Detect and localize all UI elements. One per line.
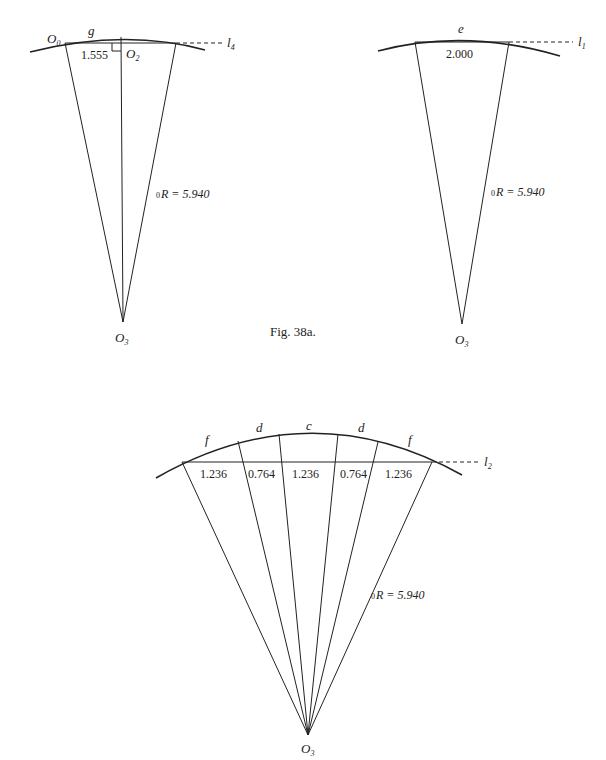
radius-5: [308, 442, 378, 735]
radius-label: 0R = 5.940: [371, 588, 424, 602]
apex-label-O3: O3: [115, 330, 128, 347]
arc-label-g: g: [88, 23, 95, 38]
radius-left: [415, 42, 462, 324]
apex-label-O3: O3: [455, 332, 468, 349]
line-label-l1: l1: [578, 34, 586, 51]
segment-value-3: 1.236: [292, 467, 319, 481]
diagram-bottom: f d c d f 1.236 0.764 1.236 0.764 1.236 …: [156, 418, 492, 758]
perpendicular: [121, 37, 123, 322]
figure-caption: Fig. 38a.: [270, 324, 316, 339]
radius-right: [123, 43, 176, 322]
segment-value-1: 1.236: [200, 467, 227, 481]
segment-value-5: 1.236: [385, 467, 412, 481]
point-label-O2: O2: [126, 46, 139, 63]
radius-label: 0R = 5.940: [491, 185, 544, 199]
apex-label-O3: O3: [301, 741, 314, 758]
radius-label: 0R = 5.940: [156, 187, 209, 201]
arc-label-d-left: d: [256, 420, 263, 435]
segment-value-4: 0.764: [340, 467, 367, 481]
point-label-O0: O0: [47, 31, 60, 48]
arc-label-c: c: [306, 418, 312, 433]
figure-38a: g O0 O2 1.555 l4 0R = 5.940 O3 e 2.000 l…: [0, 0, 606, 760]
arc-label-d-right: d: [358, 420, 365, 435]
diagram-top-left: g O0 O2 1.555 l4 0R = 5.940 O3: [30, 23, 235, 347]
line-label-l2: l2: [484, 454, 492, 471]
arc-label-f-right: f: [408, 432, 414, 447]
radius-left: [65, 43, 123, 322]
arc-label-e: e: [458, 21, 464, 36]
radius-2: [238, 441, 308, 735]
right-angle-mark: [112, 43, 121, 51]
line-label-l4: l4: [227, 35, 235, 52]
arc-label-f-left: f: [205, 432, 211, 447]
half-chord-value: 1.555: [81, 48, 108, 62]
radius-right: [462, 42, 509, 324]
diagram-top-right: e 2.000 l1 0R = 5.940 O3: [378, 21, 586, 349]
radius-1: [182, 462, 308, 735]
chord-value: 2.000: [446, 47, 473, 61]
segment-value-2: 0.764: [248, 467, 275, 481]
